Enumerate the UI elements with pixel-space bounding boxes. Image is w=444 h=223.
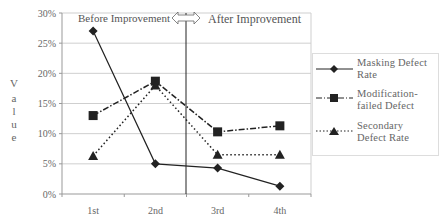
diamond-marker-icon <box>330 65 338 73</box>
legend-markers <box>313 54 357 155</box>
x-tick-label: 4th <box>273 205 286 216</box>
diamond-marker-icon <box>151 159 160 168</box>
y-tick-label: 20% <box>38 68 56 79</box>
y-tick-label: 25% <box>38 38 56 49</box>
y-tick-label: 10% <box>38 128 56 139</box>
y-axis-label-char: a <box>8 92 20 104</box>
y-axis-label-char: l <box>8 105 20 117</box>
x-tick-label: 1st <box>87 205 99 216</box>
chart-legend: Masking Defect Rate Modification- failed… <box>312 53 439 156</box>
after-improvement-label: After Improvement <box>208 12 302 26</box>
legend-label: Modification- <box>357 88 418 100</box>
square-marker-icon <box>275 121 284 130</box>
legend-label: Masking Defect <box>357 57 427 69</box>
triangle-marker-icon <box>213 150 223 159</box>
legend-label: Defect Rate <box>357 132 409 144</box>
square-marker-icon <box>89 111 98 120</box>
legend-item-masking: Masking Defect Rate <box>357 57 427 81</box>
x-tick-labels: 1st2nd3rd4th <box>87 205 286 216</box>
x-tick-label: 2nd <box>148 205 163 216</box>
y-tick-label: 15% <box>38 98 56 109</box>
y-axis-label-char: V <box>8 77 20 89</box>
y-tick-labels: 0%5%10%15%20%25%30% <box>38 8 56 200</box>
diamond-marker-icon <box>213 164 222 173</box>
y-tick-label: 5% <box>43 158 56 169</box>
y-axis-label-char: u <box>8 118 20 130</box>
legend-label: Rate <box>357 69 427 81</box>
before-improvement-label: Before Improvement <box>78 12 170 24</box>
y-axis-label-char: e <box>8 131 20 143</box>
x-tick-label: 3rd <box>211 205 224 216</box>
y-tick-label: 0% <box>43 189 56 200</box>
legend-item-secondary: Secondary Defect Rate <box>357 120 409 144</box>
square-marker-icon <box>330 94 338 102</box>
y-tick-label: 30% <box>38 8 56 19</box>
legend-label: Secondary <box>357 120 409 132</box>
square-marker-icon <box>213 127 222 136</box>
diamond-marker-icon <box>275 182 284 191</box>
legend-item-modification: Modification- failed Defect <box>357 88 418 112</box>
legend-label: failed Defect <box>357 100 418 112</box>
diamond-marker-icon <box>89 27 98 36</box>
triangle-marker-icon <box>275 150 285 159</box>
